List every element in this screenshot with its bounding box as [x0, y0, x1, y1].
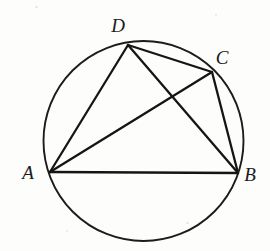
- vertex-label-c: C: [216, 47, 229, 68]
- diagonal-ac: [50, 72, 212, 172]
- scan-speck: [186, 222, 189, 224]
- vertex-label-a: A: [20, 162, 34, 183]
- scan-speck: [35, 6, 38, 8]
- geometry-figure: A B C D: [0, 0, 270, 251]
- chord-ad: [50, 45, 128, 172]
- scan-speck: [66, 230, 68, 232]
- chord-ab: [50, 172, 238, 173]
- vertex-label-b: B: [244, 164, 256, 185]
- circumscribed-circle: [44, 41, 244, 241]
- vertex-label-d: D: [110, 15, 125, 36]
- diagram-canvas: A B C D: [0, 0, 270, 251]
- scan-speck: [215, 14, 217, 16]
